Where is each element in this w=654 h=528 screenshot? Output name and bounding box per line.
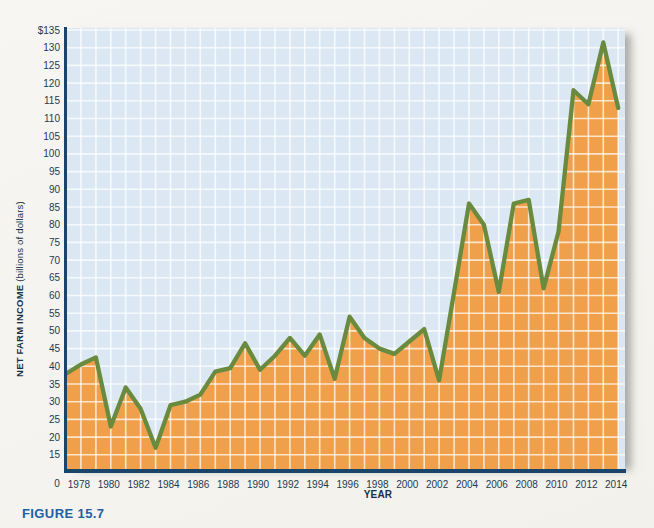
x-tick-label: 2006 bbox=[480, 479, 514, 490]
x-axis-line bbox=[64, 469, 626, 473]
y-tick-label: 90 bbox=[16, 184, 60, 195]
origin-label: 0 bbox=[47, 478, 67, 489]
y-axis-line bbox=[64, 27, 67, 472]
y-axis-title-units: (billions of dollars) bbox=[14, 201, 25, 285]
y-tick-label: 15 bbox=[16, 449, 60, 460]
x-axis-title: YEAR bbox=[358, 489, 398, 500]
net-farm-income-area-chart bbox=[66, 28, 625, 470]
y-tick-label: 20 bbox=[16, 432, 60, 443]
x-tick-label: 1986 bbox=[181, 479, 215, 490]
y-tick-label: 25 bbox=[16, 414, 60, 425]
y-tick-label: 30 bbox=[16, 396, 60, 407]
x-tick-label: 2014 bbox=[599, 479, 633, 490]
figure-caption: FIGURE 15.7 bbox=[22, 506, 104, 521]
y-tick-label: 110 bbox=[16, 113, 60, 124]
y-tick-label: 35 bbox=[16, 379, 60, 390]
y-tick-label: 125 bbox=[16, 60, 60, 71]
x-tick-label: 1982 bbox=[122, 479, 156, 490]
y-tick-label: 100 bbox=[16, 148, 60, 159]
x-tick-label: 2002 bbox=[420, 479, 454, 490]
y-tick-label: 120 bbox=[16, 78, 60, 89]
y-tick-label: 115 bbox=[16, 95, 60, 106]
scanned-textbook-page: $135130125120115110105100959085807570656… bbox=[0, 0, 654, 528]
x-tick-label: 1998 bbox=[360, 479, 394, 490]
chart-plot-area bbox=[66, 28, 625, 470]
x-tick-label: 1990 bbox=[241, 479, 275, 490]
y-tick-label: 95 bbox=[16, 166, 60, 177]
y-tick-label: 130 bbox=[16, 42, 60, 53]
x-tick-label: 2010 bbox=[540, 479, 574, 490]
income-area-fill bbox=[67, 42, 619, 470]
y-tick-label: 105 bbox=[16, 131, 60, 142]
y-axis-title-bold: NET FARM INCOME bbox=[14, 285, 25, 377]
x-tick-label: 1994 bbox=[301, 479, 335, 490]
y-axis-title: NET FARM INCOME (billions of dollars) bbox=[14, 201, 25, 377]
y-tick-label: $135 bbox=[16, 25, 60, 36]
